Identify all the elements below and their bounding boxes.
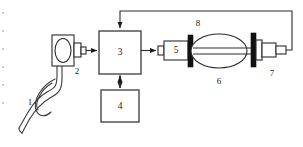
right-flange [251, 33, 256, 67]
oval-housing-transducer [52, 35, 86, 66]
scan-artifacts [2, 12, 4, 104]
component-label-5: 5 [174, 45, 179, 55]
component-label-6: 6 [217, 76, 222, 86]
component-label-1: 1 [28, 97, 33, 107]
component-label-7: 7 [270, 68, 275, 78]
component-label-8: 8 [196, 18, 201, 28]
component-label-4: 4 [118, 101, 123, 111]
flexible-tube-coil [19, 66, 62, 133]
outlet-connector [256, 40, 286, 60]
component-label-2: 2 [75, 66, 80, 76]
elliptical-chamber [191, 34, 253, 68]
component-label-3: 3 [118, 47, 123, 57]
figure-canvas: 1 2 3 4 5 [0, 0, 303, 147]
schematic-diagram: 1 2 3 4 5 [0, 0, 303, 147]
